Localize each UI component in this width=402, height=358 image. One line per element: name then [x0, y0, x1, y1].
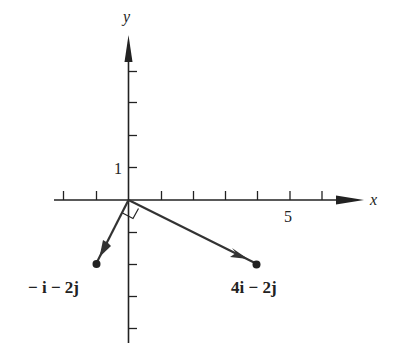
vector-4i-minus-2j: 4i − 2j: [129, 200, 277, 297]
vector-diagram: x 5 y 1 − i − 2j 4i − 2j: [0, 0, 402, 358]
x-axis-label: x: [369, 191, 377, 208]
right-angle-marker: [123, 209, 139, 219]
x-axis-ticks: [64, 191, 323, 200]
vector-label: − i − 2j: [28, 278, 79, 297]
y-axis-arrow-icon: [125, 35, 133, 62]
y-tick-label-1: 1: [114, 160, 122, 177]
y-axis: y 1: [114, 8, 137, 343]
y-axis-label: y: [121, 8, 131, 26]
x-tick-label-5: 5: [284, 208, 292, 225]
vector-neg-i-minus-2j: − i − 2j: [28, 200, 129, 297]
x-axis-arrow-icon: [336, 196, 364, 205]
vector-arrowhead-icon: [100, 240, 112, 257]
x-axis: x 5: [54, 191, 377, 225]
vector-arrowhead-icon: [230, 248, 248, 259]
vector-endpoint-dot: [93, 260, 101, 268]
vector-endpoint-dot: [253, 261, 261, 269]
vector-label: 4i − 2j: [231, 278, 277, 297]
